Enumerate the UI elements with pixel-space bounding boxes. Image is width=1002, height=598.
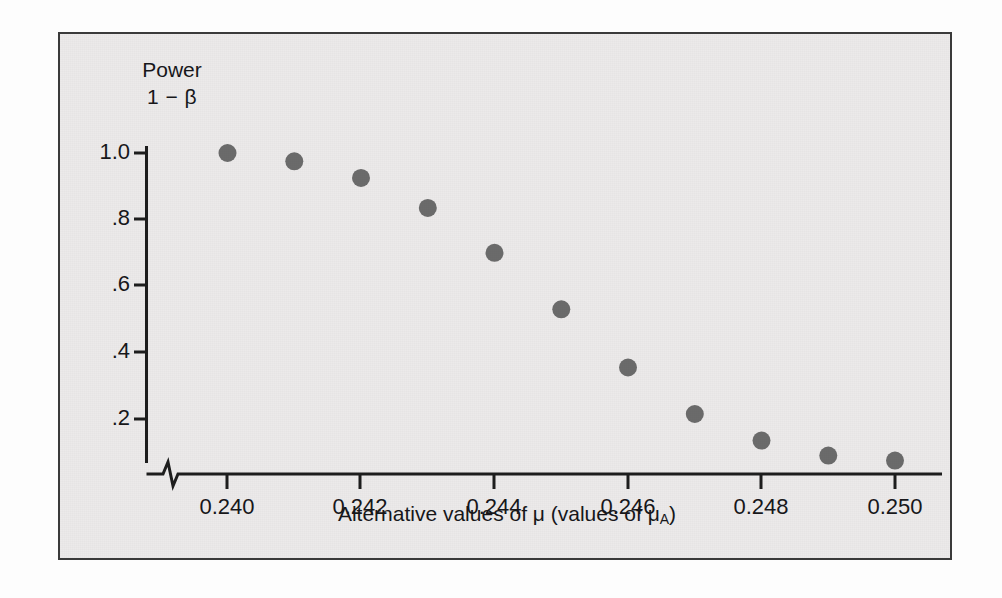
data-point (886, 452, 904, 470)
data-point (753, 432, 771, 450)
x-axis-title: Alternative values of μ (values of μA) (60, 502, 954, 527)
plot-svg: #plot-svg g[data-name="data-point-series… (60, 34, 954, 562)
data-point (219, 144, 237, 162)
y-tick-label-0.8: .8 (60, 205, 130, 231)
y-axis-title: Power 1 − β (112, 56, 232, 110)
data-point (419, 199, 437, 217)
y-tick-label-0.6: .6 (60, 271, 130, 297)
y-tick-label-1.0: 1.0 (60, 139, 130, 165)
x-axis-line-with-break (147, 462, 943, 486)
y-tick-label-0.4: .4 (60, 338, 130, 364)
data-point-series (219, 144, 905, 470)
data-point (619, 359, 637, 377)
figure-frame: #plot-svg g[data-name="data-point-series… (58, 32, 952, 560)
data-point (285, 152, 303, 170)
x-axis-title-main: Alternative values of μ (values of μ (338, 502, 660, 525)
x-axis-title-subscript: A (660, 511, 669, 527)
y-tick-label-0.2: .2 (60, 405, 130, 431)
plot-area: #plot-svg g[data-name="data-point-series… (60, 34, 954, 562)
data-point (552, 300, 570, 318)
data-point (819, 447, 837, 465)
data-point (486, 244, 504, 262)
scanned-page: #plot-svg g[data-name="data-point-series… (0, 0, 1002, 598)
data-point (352, 169, 370, 187)
x-axis-title-close: ) (669, 502, 676, 525)
y-axis-title-line1: Power (142, 58, 202, 81)
y-axis-title-line2: 1 − β (112, 83, 232, 110)
data-point (686, 405, 704, 423)
